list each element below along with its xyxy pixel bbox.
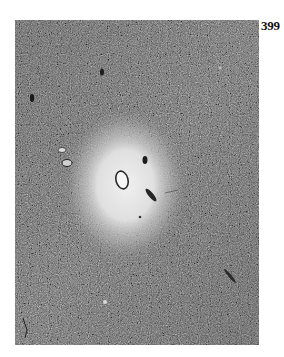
page-number: 399 [261, 18, 280, 34]
micrograph-image [15, 20, 259, 345]
micrograph-figure [15, 20, 259, 345]
